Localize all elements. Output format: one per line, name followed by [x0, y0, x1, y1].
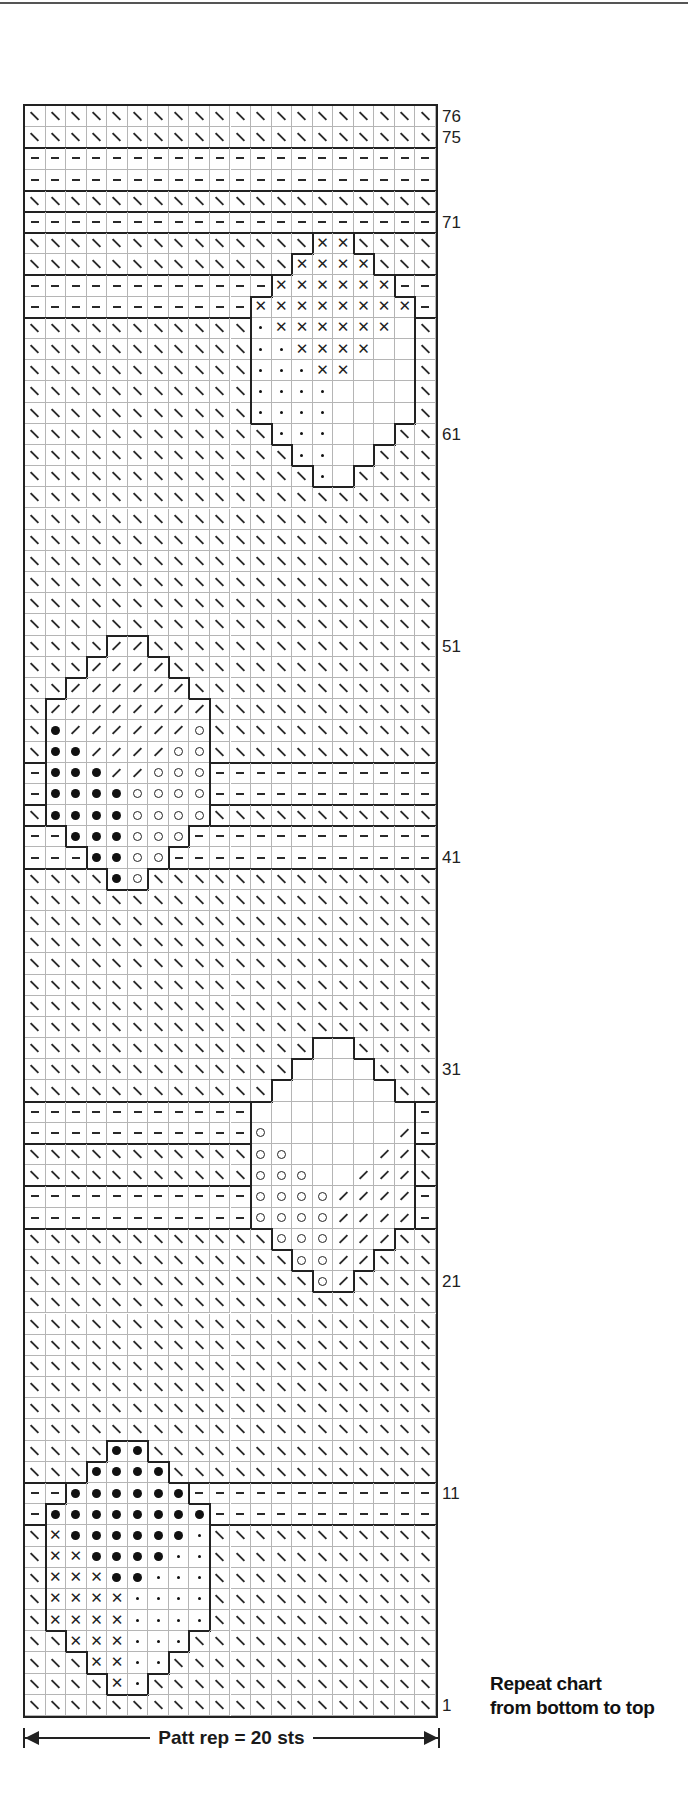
chart-cell	[374, 847, 395, 868]
chart-cell	[292, 1017, 313, 1038]
chart-cell	[354, 1335, 375, 1356]
large-dot-symbol-icon	[92, 1552, 101, 1561]
chart-cell	[25, 890, 46, 911]
backslash-symbol-icon	[379, 1005, 390, 1007]
chart-cell	[66, 1335, 87, 1356]
dash-symbol-icon	[216, 1132, 224, 1134]
backslash-symbol-icon	[50, 1428, 61, 1430]
small-dot-symbol-icon	[136, 1661, 139, 1664]
chart-cell	[292, 869, 313, 890]
chart-cell	[128, 360, 149, 381]
chart-cell	[46, 636, 67, 657]
chart-cell	[169, 275, 190, 296]
large-dot-symbol-icon	[154, 1531, 163, 1540]
chart-cell	[189, 1610, 210, 1631]
backslash-symbol-icon	[255, 729, 266, 731]
chart-cell	[87, 1123, 108, 1144]
backslash-symbol-icon	[235, 1365, 246, 1367]
chart-cell	[395, 1208, 416, 1229]
chart-cell	[272, 657, 293, 678]
backslash-symbol-icon	[235, 1450, 246, 1452]
chart-cell	[354, 487, 375, 508]
chart-cell	[210, 445, 231, 466]
dash-symbol-icon	[380, 179, 388, 181]
chart-cell	[231, 1610, 252, 1631]
cross-symbol-icon	[316, 236, 329, 251]
backslash-symbol-icon	[29, 518, 40, 520]
small-dot-symbol-icon	[280, 348, 283, 351]
chart-cell	[87, 1674, 108, 1695]
chart-cell	[87, 1017, 108, 1038]
chart-cell	[313, 614, 334, 635]
dash-symbol-icon	[318, 857, 326, 859]
chart-cell	[66, 1038, 87, 1059]
chart-cell	[189, 869, 210, 890]
chart-cell	[272, 953, 293, 974]
chart-cell	[107, 1229, 128, 1250]
small-dot-symbol-icon	[177, 1640, 180, 1643]
chart-cell	[128, 1250, 149, 1271]
backslash-symbol-icon	[338, 687, 349, 689]
chart-cell	[272, 1314, 293, 1335]
chart-cell	[313, 424, 334, 445]
chart-cell	[231, 1525, 252, 1546]
backslash-symbol-icon	[338, 1556, 349, 1558]
chart-cell	[313, 1441, 334, 1462]
chart-cell	[395, 530, 416, 551]
chart-cell	[210, 212, 231, 233]
chart-cell	[395, 1589, 416, 1610]
chart-cell	[251, 1144, 272, 1165]
dash-symbol-icon	[51, 1195, 59, 1197]
backslash-symbol-icon	[70, 1683, 81, 1685]
chart-cell	[107, 1610, 128, 1631]
chart-cell	[189, 1568, 210, 1589]
chart-cell	[374, 1208, 395, 1229]
chart-cell	[292, 657, 313, 678]
chart-cell	[292, 1483, 313, 1504]
chart-cell	[333, 720, 354, 741]
chart-cell	[210, 636, 231, 657]
chart-cell	[395, 233, 416, 254]
chart-cell	[169, 1441, 190, 1462]
backslash-symbol-icon	[296, 1301, 307, 1303]
chart-cell	[46, 996, 67, 1017]
backslash-symbol-icon	[111, 1174, 122, 1176]
backslash-symbol-icon	[50, 327, 61, 329]
chart-cell	[189, 1504, 210, 1525]
backslash-symbol-icon	[379, 751, 390, 753]
chart-cell	[374, 509, 395, 530]
backslash-symbol-icon	[214, 518, 225, 520]
chart-cell	[87, 1165, 108, 1186]
dash-symbol-icon	[134, 1217, 142, 1219]
chart-cell	[231, 1483, 252, 1504]
backslash-symbol-icon	[153, 433, 164, 435]
circle-symbol-icon	[277, 1234, 286, 1243]
chart-cell	[107, 424, 128, 445]
chart-cell	[354, 636, 375, 657]
chart-cell	[395, 614, 416, 635]
chart-cell	[189, 551, 210, 572]
cross-symbol-icon	[316, 320, 329, 335]
cross-symbol-icon	[49, 1570, 62, 1585]
backslash-symbol-icon	[194, 1407, 205, 1409]
chart-cell	[333, 551, 354, 572]
backslash-symbol-icon	[91, 475, 102, 477]
chart-cell	[251, 1314, 272, 1335]
chart-cell	[46, 572, 67, 593]
chart-cell	[46, 381, 67, 402]
chart-cell	[333, 932, 354, 953]
chart-cell	[107, 1568, 128, 1589]
backslash-symbol-icon	[358, 751, 369, 753]
chart-cell	[46, 826, 67, 847]
chart-cell	[272, 233, 293, 254]
backslash-symbol-icon	[91, 1005, 102, 1007]
chart-cell	[313, 1080, 334, 1101]
chart-cell	[395, 1144, 416, 1165]
chart-cell	[333, 572, 354, 593]
slash-symbol-icon	[91, 729, 102, 731]
backslash-symbol-icon	[214, 1090, 225, 1092]
backslash-symbol-icon	[276, 1365, 287, 1367]
slash-symbol-icon	[358, 1259, 369, 1261]
chart-cell	[231, 1674, 252, 1695]
chart-cell	[374, 1441, 395, 1462]
